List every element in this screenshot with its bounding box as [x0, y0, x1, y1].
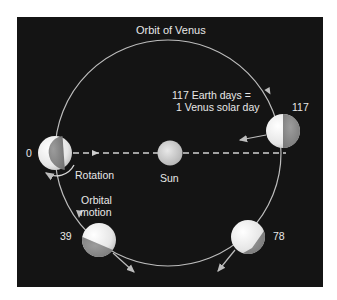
sun-pointer-arrow-icon [113, 253, 134, 272]
annotation-line-1: 117 Earth days = [172, 89, 251, 101]
arrow-icon [92, 150, 99, 156]
venus-position-78 [231, 220, 266, 256]
orbit-diagram [0, 0, 337, 300]
rotation-label: Rotation [75, 169, 114, 181]
venus-position-0 [38, 134, 72, 172]
orbital-motion-line-2: motion [80, 206, 112, 218]
annotation-line-2: 1 Venus solar day [176, 101, 259, 113]
sun-label: Sun [160, 172, 179, 184]
orbit-arrow-icon [264, 87, 273, 96]
venus-position-117 [266, 112, 302, 150]
position-label-39: 39 [60, 230, 72, 242]
sun-pointer-arrow-icon [240, 135, 266, 140]
orbit-title: Orbit of Venus [136, 24, 206, 36]
position-label-117: 117 [292, 101, 309, 113]
orbital-motion-line-1: Orbital [81, 194, 112, 206]
venus-position-39 [80, 223, 118, 260]
position-label-78: 78 [273, 230, 285, 242]
position-label-0: 0 [26, 147, 32, 159]
sun [158, 141, 183, 166]
